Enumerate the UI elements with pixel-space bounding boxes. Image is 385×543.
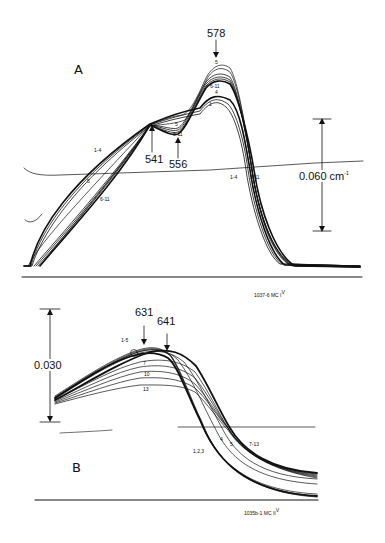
panel-a-curve-5 xyxy=(28,65,360,267)
curve-label-10: 10 xyxy=(144,371,150,377)
curve-label-7-13: 7-13 xyxy=(249,441,259,447)
panel-a-scale-label: 0.060 cm-1 xyxy=(298,170,350,182)
curve-label-1-2-3: 1,2,3 xyxy=(193,448,204,454)
curve-label-5: 5 xyxy=(87,178,90,184)
curve-label-1: 1 xyxy=(209,101,212,107)
panel-b-sample-id: 1035b-1 MC IIV xyxy=(244,507,279,516)
curve-label-5-top: 5 xyxy=(215,59,218,65)
panel-b-letter: B xyxy=(72,460,80,475)
peak-578-label: 578 xyxy=(207,27,225,39)
peak-541-label: 541 xyxy=(145,153,163,165)
sample-id-superscript: V xyxy=(282,289,285,295)
scale-unit-exponent: -1 xyxy=(344,170,348,176)
curve-label-1-4: 1-4 xyxy=(94,147,101,153)
curve-label-5-mid: 5 xyxy=(175,121,178,127)
curve-label-8-11: 8-11 xyxy=(173,131,183,137)
curve-label-5: 5 xyxy=(230,441,233,447)
spectra-figure xyxy=(0,0,385,543)
curve-label-7: 7 xyxy=(143,360,146,366)
panel-a-curves-1-4-thin xyxy=(24,100,360,266)
panel-a-letter: A xyxy=(74,62,82,77)
curve-label-4: 4 xyxy=(215,89,218,95)
panel-b-scale-label: 0.030 xyxy=(34,359,62,371)
scale-value: 0.060 cm xyxy=(299,170,344,182)
sample-id-superscript: V xyxy=(276,507,279,513)
curve-label-1-4-right: 1-4 xyxy=(230,174,237,180)
sample-id-text: 1037-6 MC I xyxy=(254,292,282,298)
curve-label-5-11: 5-11 xyxy=(250,174,260,180)
sample-id-text: 1035b-1 MC II xyxy=(244,510,276,516)
peak-631-label: 631 xyxy=(135,306,153,318)
peak-556-label: 556 xyxy=(169,158,187,170)
peak-641-label: 641 xyxy=(157,315,175,327)
panel-b-curves xyxy=(55,348,317,497)
curve-label-4: 4 xyxy=(220,436,223,442)
panel-a-sample-id: 1037-6 MC IV xyxy=(254,289,285,298)
curve-label-6-11: 6-11 xyxy=(100,196,110,202)
curve-label-1-5: 1-5 xyxy=(121,337,128,343)
curve-label-13: 13 xyxy=(143,386,149,392)
